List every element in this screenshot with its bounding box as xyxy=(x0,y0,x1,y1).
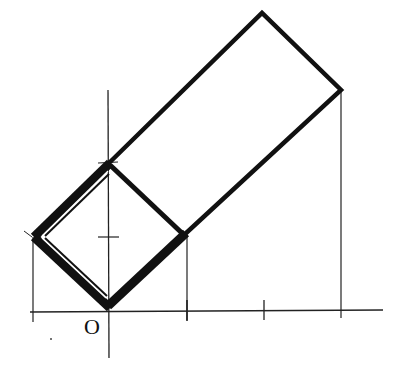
geometry-diagram xyxy=(0,0,398,369)
square-side-bottom-left xyxy=(34,237,110,308)
y-axis xyxy=(108,90,109,358)
origin-label: O xyxy=(84,316,100,338)
stray-dot xyxy=(50,338,52,340)
square-inner-left xyxy=(45,174,109,236)
square-inner-left xyxy=(45,238,107,296)
square-side-top-left xyxy=(34,163,110,237)
x-axis xyxy=(30,310,383,312)
square-side-top-right xyxy=(110,165,184,235)
square-side-bottom-right xyxy=(108,233,186,306)
rectangle xyxy=(108,13,341,235)
square-inner-highlight xyxy=(42,171,108,236)
square-inner-highlight xyxy=(42,238,106,298)
vertex-mark xyxy=(24,231,32,237)
